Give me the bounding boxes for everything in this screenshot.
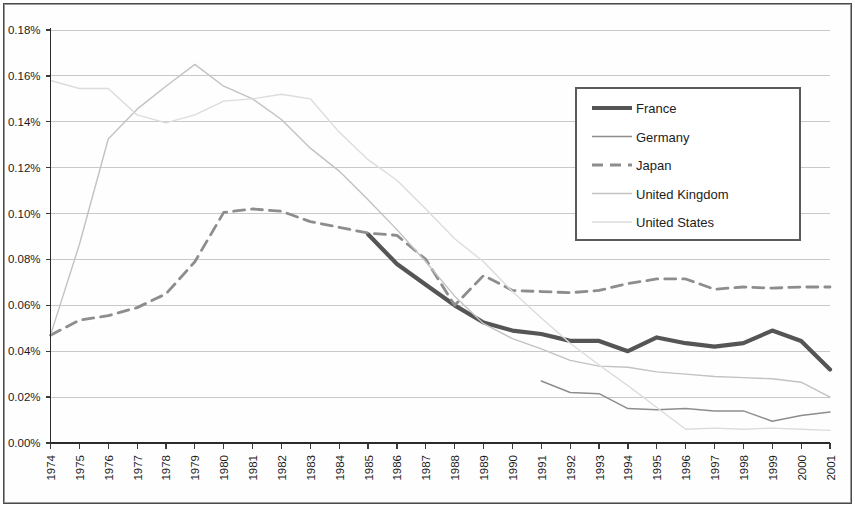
x-axis-tick-label: 1983	[305, 455, 317, 481]
x-axis-tick-label: 1980	[218, 455, 230, 481]
legend-label-france: France	[636, 101, 676, 116]
y-axis-tick-label: 0.06%	[8, 299, 41, 311]
x-axis-tick-label: 2000	[796, 455, 808, 481]
x-axis-tick-label: 1977	[132, 455, 144, 481]
x-axis-tick-label: 1998	[738, 455, 750, 481]
legend-label-united-kingdom: United Kingdom	[636, 187, 729, 202]
series-line-france	[368, 234, 830, 369]
y-axis-tick-label: 0.18%	[8, 24, 41, 36]
x-axis-tick-label: 1984	[334, 454, 346, 480]
legend-label-united-states: United States	[636, 215, 715, 230]
x-axis-tick-label: 1989	[478, 455, 490, 481]
y-axis-tick-label: 0.08%	[8, 253, 41, 265]
y-axis-tick-label: 0.10%	[8, 208, 41, 220]
series-line-germany	[541, 381, 830, 421]
x-axis-tick-label: 2001	[825, 455, 837, 481]
line-chart: 0.18%0.16%0.14%0.12%0.10%0.08%0.06%0.04%…	[0, 0, 855, 507]
y-axis-tick-label: 0.02%	[8, 391, 41, 403]
y-axis-tick-label: 0.12%	[8, 162, 41, 174]
y-axis-tick-label: 0.14%	[8, 116, 41, 128]
x-axis-tick-label: 1975	[74, 455, 86, 481]
x-axis-tick-label: 1981	[247, 455, 259, 481]
x-axis-tick-label: 1996	[680, 455, 692, 481]
x-axis-tick-label: 1987	[420, 455, 432, 481]
x-axis-tick-label: 1992	[565, 455, 577, 481]
x-axis-tick-label: 1997	[709, 455, 721, 481]
x-axis-tick-label: 1976	[103, 455, 115, 481]
x-axis-tick-label: 1985	[363, 455, 375, 481]
x-axis-tick-label: 1988	[449, 455, 461, 481]
x-axis-tick-label: 1993	[594, 455, 606, 481]
x-axis-tick-label: 1991	[536, 455, 548, 481]
x-axis-tick-label: 1978	[160, 455, 172, 481]
x-axis-tick-label: 1979	[189, 455, 201, 481]
x-axis-tick-label: 1995	[651, 455, 663, 481]
legend-label-japan: Japan	[636, 158, 671, 173]
x-axis-tick-label: 1994	[622, 454, 634, 480]
x-axis-tick-label: 1990	[507, 455, 519, 481]
y-axis-tick-label: 0.04%	[8, 345, 41, 357]
x-axis-tick-label: 1999	[767, 455, 779, 481]
chart-page: 0.18%0.16%0.14%0.12%0.10%0.08%0.06%0.04%…	[0, 0, 855, 507]
x-axis-tick-label: 1986	[391, 455, 403, 481]
y-axis-tick-label: 0.16%	[8, 70, 41, 82]
legend-label-germany: Germany	[636, 130, 690, 145]
x-axis-tick-label: 1974	[45, 454, 57, 480]
y-axis-tick-label: 0.00%	[8, 437, 41, 449]
x-axis-tick-label: 1982	[276, 455, 288, 481]
